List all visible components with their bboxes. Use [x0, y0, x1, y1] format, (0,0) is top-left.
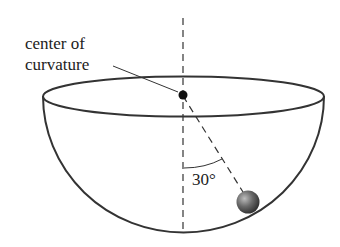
bowl-diagram: center of curvature 30° — [0, 0, 340, 247]
ball — [237, 191, 260, 214]
angle-label: 30° — [192, 170, 216, 189]
center-of-curvature-dot — [179, 91, 188, 100]
angle-arc — [184, 159, 222, 168]
label-center-of: center of — [25, 34, 85, 53]
label-curvature: curvature — [25, 55, 89, 74]
